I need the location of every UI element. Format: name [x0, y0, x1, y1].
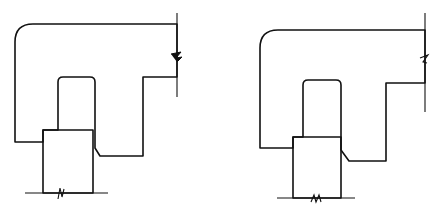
left-section-figure — [15, 13, 182, 199]
left-right-break-symbol — [171, 52, 182, 62]
right-section-figure — [260, 13, 428, 202]
left-post-section — [43, 130, 93, 193]
diagram-canvas — [0, 0, 440, 212]
left-body-section — [15, 24, 177, 156]
left-baseline-break-symbol — [58, 188, 64, 199]
right-right-break-symbol — [420, 55, 428, 63]
right-post-section — [293, 137, 341, 198]
right-body-section — [260, 30, 425, 161]
